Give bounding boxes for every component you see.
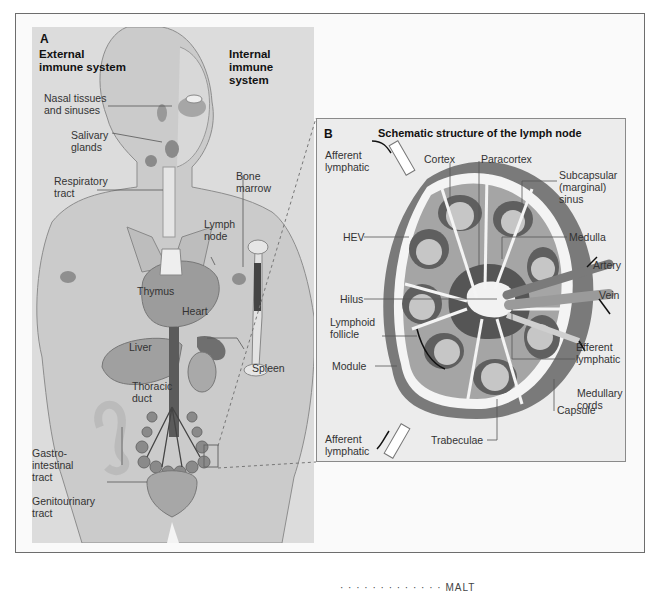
label-trabeculae: Trabeculae [431,434,483,446]
label-gastrointestinal-tract: Gastro- intestinal tract [32,447,73,483]
label-afferent-lymphatic-bottom: Afferent lymphatic [325,433,369,457]
label-subcapsular-sinus: Subcapsular (marginal) sinus [559,169,617,205]
label-hilus: Hilus [340,293,363,305]
panel-b-title: Schematic structure of the lymph node [378,127,582,139]
panel-b-letter: B [324,127,333,141]
panel-b-lymph-node-schematic: B Schematic structure of the lymph node … [316,118,626,462]
label-salivary-glands: Salivary glands [71,129,108,153]
label-nasal-tissues: Nasal tissues and sinuses [44,92,106,116]
panel-a-letter: A [40,32,49,46]
label-liver: Liver [129,341,152,353]
label-afferent-lymphatic-top: Afferent lymphatic [325,149,369,173]
label-medulla: Medulla [569,231,606,243]
label-genitourinary-tract: Genitourinary tract [32,495,95,519]
label-capsule: Capsule [557,404,596,416]
cutoff-caption: · · · · · · · · · · · · · MALT [340,582,475,591]
label-spleen: Spleen [252,362,285,374]
external-immune-heading: External immune system [39,48,126,74]
label-hev: HEV [343,231,365,243]
label-bone-marrow: Bone marrow [236,170,271,194]
label-cortex: Cortex [424,153,455,165]
label-lymph-node: Lymph node [204,218,235,242]
label-efferent-lymphatic: Efferent lymphatic [576,341,620,365]
label-vein: Vein [599,289,619,301]
label-module: Module [332,360,366,372]
label-respiratory-tract: Respiratory tract [54,175,108,199]
label-thymus: Thymus [137,285,174,297]
label-paracortex: Paracortex [481,153,532,165]
label-artery: Artery [593,259,621,271]
label-heart: Heart [182,305,208,317]
label-thoracic-duct: Thoracic duct [132,380,172,404]
internal-immune-heading: Internal immune system [229,48,314,87]
panel-a-body-diagram: A External immune system Internal immune… [32,27,314,543]
label-lymphoid-follicle: Lymphoid follicle [330,316,375,340]
